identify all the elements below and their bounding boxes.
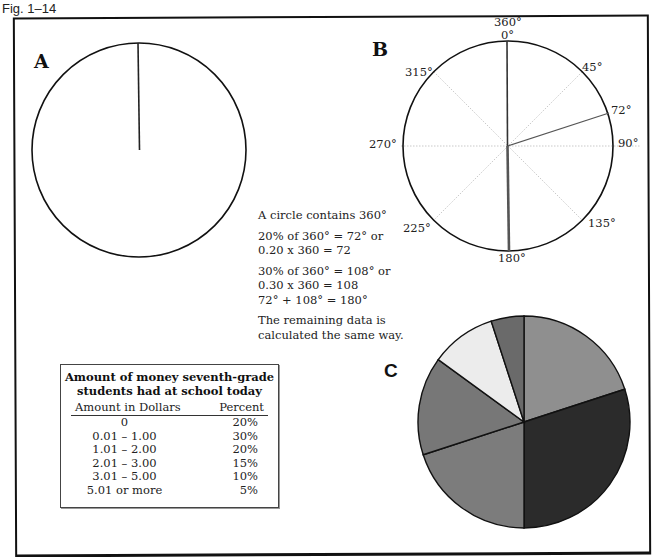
cell-amount: 5.01 or more [71, 484, 198, 498]
cell-percent: 20% [198, 443, 268, 457]
table-row: 5.01 or more 5% [71, 484, 268, 498]
cell-percent: 30% [198, 430, 268, 444]
explanation-line: The remaining data is [258, 313, 458, 328]
guide-lines [401, 72, 640, 220]
header-percent: Percent [204, 400, 268, 415]
degree-label-72: 72° [611, 103, 631, 117]
line-0deg [507, 41, 508, 146]
cell-percent: 5% [198, 484, 268, 498]
table-title: Amount of money seventh-grade students h… [61, 370, 278, 398]
cell-amount: 2.01 – 3.00 [71, 457, 198, 471]
table-row: 2.01 – 3.00 15% [71, 457, 268, 471]
explanation-line: 20% of 360° = 72° or [258, 229, 458, 244]
radius-line-0deg [138, 43, 140, 150]
explanation-line: 30% of 360° = 108° or [258, 264, 458, 279]
explanation-line: calculated the same way. [258, 328, 458, 343]
data-table: Amount of money seventh-grade students h… [60, 364, 279, 508]
explanation-line: 0.20 x 360 = 72 [258, 243, 458, 258]
table-row: 0 20% [71, 416, 268, 430]
degree-label-90: 90° [618, 136, 638, 150]
explanation-line: A circle contains 360° [258, 208, 458, 223]
header-amount: Amount in Dollars [71, 400, 204, 415]
degree-label-315: 315° [405, 65, 433, 79]
explanation-line: 0.30 x 360 = 108 [258, 278, 458, 293]
line-180deg [508, 146, 510, 251]
table-title-line: students had at school today [61, 384, 278, 398]
table-title-line: Amount of money seventh-grade [61, 370, 278, 384]
degree-label-180: 180° [498, 251, 526, 265]
panel-letter-b: B [372, 38, 388, 60]
cell-percent: 10% [198, 470, 268, 484]
table-row: 1.01 – 2.00 20% [71, 443, 268, 457]
cell-percent: 15% [198, 457, 268, 471]
cell-amount: 3.01 – 5.00 [71, 470, 198, 484]
panel-letter-a: A [34, 50, 49, 72]
table-row: 0.01 – 1.00 30% [71, 430, 268, 444]
degree-label-360: 360° [494, 15, 522, 29]
cell-percent: 20% [198, 416, 268, 430]
cell-amount: 1.01 – 2.00 [71, 443, 198, 457]
degree-label-135: 135° [588, 216, 616, 230]
degree-label-270: 270° [369, 137, 397, 151]
explanation-text: A circle contains 360° 20% of 360° = 72°… [258, 208, 458, 348]
table-header: Amount in Dollars Percent [71, 400, 268, 416]
line-72deg [508, 113, 610, 146]
degree-label-0: 0° [501, 28, 514, 42]
cell-amount: 0.01 – 1.00 [71, 430, 198, 444]
cell-amount: 0 [71, 416, 198, 430]
panel-letter-c: C [384, 360, 398, 382]
explanation-line: 72° + 108° = 180° [258, 293, 458, 308]
circle-a [32, 43, 246, 257]
degree-label-45: 45° [582, 60, 602, 74]
table-row: 3.01 – 5.00 10% [71, 470, 268, 484]
